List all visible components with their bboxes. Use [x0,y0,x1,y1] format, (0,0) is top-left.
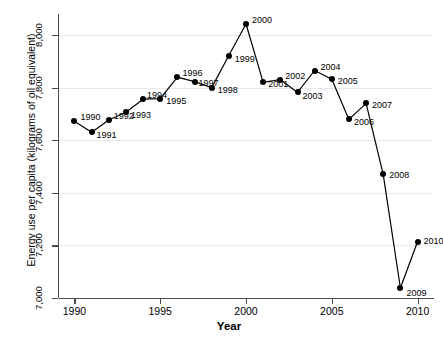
x-tick-label: 1990 [49,305,99,317]
point-label: 1998 [218,86,238,95]
x-tick-label: 1995 [135,305,185,317]
x-tick-mark [418,299,419,304]
point-label: 1995 [166,97,186,106]
point-label: 1999 [235,55,255,64]
point-label: 1990 [80,113,100,122]
x-axis-title: Year [59,320,399,332]
point-label: 1996 [182,69,202,78]
plot-area: 1990199119921993199419951996199719981999… [59,14,433,298]
data-point-marker [295,89,301,95]
data-point-marker [89,129,95,135]
point-label: 2004 [321,63,341,72]
point-label: 2000 [252,16,272,25]
data-point-marker [106,117,112,123]
data-point-marker [312,68,318,74]
point-label: 1993 [131,111,151,120]
x-tick-label: 2005 [307,305,357,317]
x-tick-label: 2010 [393,305,443,317]
point-label: 2008 [389,171,409,180]
x-tick-mark [246,299,247,304]
point-label: 2003 [303,92,323,101]
x-tick-mark [74,299,75,304]
data-point-marker [243,21,249,27]
point-label: 1997 [199,79,219,88]
point-label: 2005 [338,77,358,86]
point-label: 2006 [354,118,374,127]
x-tick-mark [160,299,161,304]
data-point-marker [226,53,232,59]
point-label: 2009 [406,289,426,298]
point-label: 2007 [372,101,392,110]
data-point-marker [329,76,335,82]
x-tick-label: 2000 [221,305,271,317]
point-label: 2001 [268,80,288,89]
point-label: 2002 [285,72,305,81]
x-tick-mark [332,299,333,304]
point-label: 2010 [424,237,443,246]
point-label: 1991 [97,131,117,140]
data-point-marker [192,79,198,85]
data-point-marker [415,239,421,245]
point-label: 1994 [147,91,167,100]
chart-figure: Energy use per capita (kilograms of oil … [0,0,443,348]
